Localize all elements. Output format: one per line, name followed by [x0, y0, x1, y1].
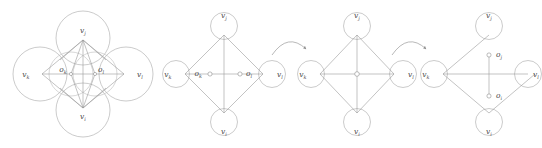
panel-3-label-v-k: vk	[299, 70, 306, 80]
panel-4-label-v-k: vk	[422, 70, 429, 80]
panel-4-edges	[443, 35, 535, 113]
figure-container: vj vi vk vl ok ol vj vi vk vl ok ol	[0, 0, 542, 148]
panel-2: vj vi vk vl ok ol	[163, 11, 286, 137]
panel-1-label-o-l: ol	[98, 65, 105, 75]
panel-4-label-o-j: oj	[496, 50, 503, 61]
panel-2-label-v-k: vk	[164, 70, 171, 80]
panel-3-label-v-i: vi	[354, 127, 360, 137]
panel-2-node-o-k	[208, 72, 212, 76]
panel-1: vj vi vk vl ok ol	[13, 11, 153, 137]
panel-4: vj vi vk vl oj oi	[421, 11, 542, 137]
panel-2-label-o-l: ol	[246, 69, 253, 79]
transition-arrow-1	[272, 42, 306, 55]
panel-2-node-o-l	[238, 72, 242, 76]
panel-1-edges	[42, 40, 124, 108]
panel-1-label-v-i: vi	[80, 112, 86, 122]
panel-2-label-v-l: vl	[277, 70, 283, 80]
panel-1-node-o-l	[93, 72, 96, 75]
panel-1-label-v-j: vj	[80, 26, 86, 37]
panel-4-node-o-j	[487, 53, 491, 57]
panel-3-label-v-l: vl	[408, 70, 414, 80]
panel-1-node-o-k	[69, 72, 72, 75]
panel-1-label-v-l: vl	[137, 70, 143, 80]
transition-arrow-2	[392, 42, 426, 55]
figure-svg: vj vi vk vl ok ol vj vi vk vl ok ol	[0, 0, 542, 148]
panel-2-label-o-k: ok	[194, 69, 202, 79]
panel-3: vj vi vk vl	[298, 11, 417, 137]
panel-4-label-v-l: vl	[533, 70, 539, 80]
panel-4-node-o-i	[487, 94, 491, 98]
panel-4-label-o-i: oi	[496, 91, 503, 101]
panel-1-label-v-k: vk	[22, 70, 29, 80]
panel-3-node-o-center	[355, 72, 360, 77]
panel-2-label-v-i: vi	[221, 127, 227, 137]
panel-4-label-v-i: vi	[486, 127, 492, 137]
